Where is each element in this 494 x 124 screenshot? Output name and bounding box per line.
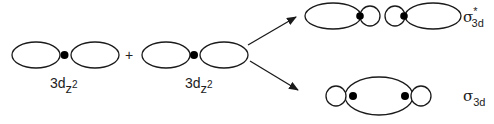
nucleus [61,51,69,59]
end-lobe-right [411,86,431,106]
right-orbital-label: 3dz2 [185,75,213,96]
end-lobe-left [326,86,346,106]
arrow-to-antibonding [248,17,296,45]
bonding-orbital [326,77,431,115]
antibonding-label: σ*3d [463,5,484,29]
lobe-right [200,42,248,68]
nucleus [400,12,408,20]
plus-operator: + [125,47,133,63]
big-lobe-left [305,3,361,29]
nucleus [349,92,357,100]
lobe-left [142,42,190,68]
nucleus [190,51,198,59]
lobe-right [71,42,119,68]
lobe-left [12,42,60,68]
left-orbital-label: 3dz2 [50,75,78,96]
nucleus [356,12,364,20]
big-lobe-right [405,3,461,29]
arrow-to-bonding [250,61,298,90]
bonding-label: σ3d [463,87,486,108]
atomic-orbital-left [12,42,119,68]
nucleus [401,92,409,100]
antibonding-orbital [305,3,461,29]
mo-diagram: 3dz2 + 3dz2 σ*3d σ3d [0,0,494,124]
atomic-orbital-right [142,42,248,68]
